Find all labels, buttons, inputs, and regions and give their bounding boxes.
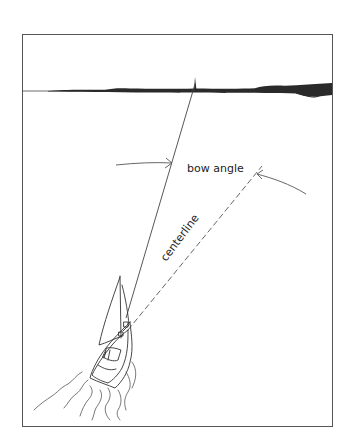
heading-line (126, 84, 195, 318)
mast (120, 276, 121, 338)
left-arrow-icon (116, 163, 172, 165)
diagram-canvas (0, 0, 351, 446)
bow-angle-label: bow angle (187, 162, 244, 175)
right-arrow-icon (257, 174, 306, 194)
shoreline (48, 83, 332, 97)
centerline-line (128, 166, 262, 330)
sailboat (90, 276, 132, 388)
spire-icon (194, 77, 197, 90)
diagram: bow angle centerline (0, 0, 351, 446)
